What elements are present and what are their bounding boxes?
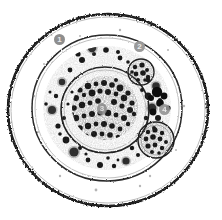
- annotation-badge-1[interactable]: 1: [54, 34, 65, 45]
- annotation-badge-4[interactable]: 4: [159, 104, 170, 115]
- annotation-badge-2[interactable]: 2: [134, 41, 145, 52]
- cell-illustration: [0, 0, 222, 220]
- annotation-badge-3[interactable]: 3: [97, 103, 107, 115]
- figure-canvas: 1 2 3 4: [0, 0, 222, 220]
